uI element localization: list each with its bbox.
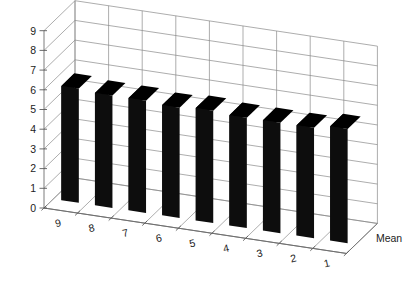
value-tick-6: 6	[30, 84, 36, 96]
bar-top-face	[263, 108, 294, 123]
chart-container: 0123456789 987654321 Mean	[0, 0, 411, 302]
bar-2	[297, 113, 328, 239]
bar-top-face	[297, 113, 328, 128]
bar-top-face	[95, 80, 126, 95]
three-d-bar-chart: 0123456789 987654321 Mean	[0, 0, 411, 302]
bar-top-face	[330, 114, 361, 129]
bar-front-face	[196, 108, 213, 223]
category-tick-5: 5	[188, 236, 197, 249]
bar-top-face	[229, 103, 259, 118]
value-tick-4: 4	[30, 123, 36, 135]
bar-front-face	[297, 125, 314, 238]
category-tick-4: 4	[222, 241, 231, 254]
category-tick-8: 8	[87, 221, 96, 234]
value-tick-2: 2	[30, 162, 36, 174]
bar-front-face	[330, 126, 347, 243]
bar-3	[263, 108, 294, 234]
category-tick-2: 2	[289, 251, 298, 264]
value-tick-1: 1	[30, 182, 36, 194]
bar-top-face	[129, 85, 160, 100]
bar-front-face	[229, 115, 246, 228]
bar-6	[162, 92, 193, 218]
value-axis-tick-labels: 0123456789	[30, 25, 36, 214]
bar-1	[330, 114, 361, 243]
category-tick-1: 1	[323, 256, 332, 269]
bar-front-face	[162, 105, 179, 218]
value-tick-0: 0	[30, 202, 36, 214]
category-tick-9: 9	[54, 216, 63, 229]
category-tick-7: 7	[121, 226, 130, 239]
bar-front-face	[95, 93, 112, 208]
bar-front-face	[61, 86, 78, 203]
bar-front-face	[129, 98, 146, 213]
value-tick-5: 5	[30, 103, 36, 115]
value-tick-3: 3	[30, 143, 36, 155]
value-tick-8: 8	[30, 44, 36, 56]
category-axis-tick-labels: 987654321	[54, 216, 331, 269]
value-tick-7: 7	[30, 64, 36, 76]
value-tick-9: 9	[30, 25, 36, 37]
bar-front-face	[263, 120, 280, 233]
bar-7	[129, 85, 160, 213]
depth-axis-title: Mean	[376, 232, 402, 244]
bar-5	[196, 96, 227, 224]
depth-axis-label: Mean	[376, 232, 402, 244]
bar-4	[229, 103, 259, 229]
bar-9	[61, 73, 92, 202]
bar-8	[95, 80, 126, 208]
bar-top-face	[196, 96, 227, 111]
bar-top-face	[61, 73, 92, 88]
category-tick-6: 6	[155, 231, 164, 244]
bar-top-face	[162, 92, 193, 107]
category-tick-3: 3	[255, 246, 264, 259]
